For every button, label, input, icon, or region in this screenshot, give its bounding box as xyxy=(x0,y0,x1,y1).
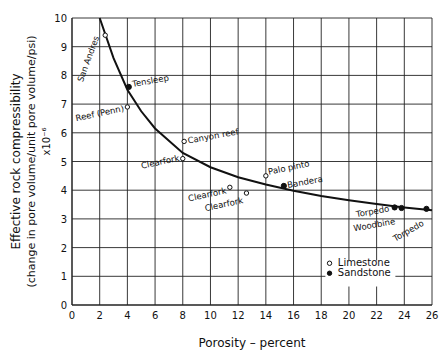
x-tick-label: 24 xyxy=(398,310,411,321)
y-tick-label: 8 xyxy=(61,70,67,81)
point-label: Bandera xyxy=(286,174,323,190)
x-tick-label: 22 xyxy=(370,310,383,321)
x-tick-label: 26 xyxy=(426,310,439,321)
point-label: Torpedo xyxy=(390,218,425,244)
data-point-torpedo xyxy=(392,205,397,210)
y-axis-scale: x10⁻⁶ xyxy=(41,128,52,156)
legend-marker-sandstone xyxy=(327,271,331,275)
y-tick-label: 1 xyxy=(61,271,67,282)
x-tick-label: 0 xyxy=(69,310,75,321)
point-label: Clearfork xyxy=(140,153,180,171)
data-point-san-andres xyxy=(103,33,107,37)
y-tick-label: 4 xyxy=(61,185,67,196)
data-point-canyon-reef xyxy=(182,139,186,143)
y-axis-subtitle: (change in pore volume/unit pore volume/… xyxy=(25,35,38,287)
y-tick-label: 3 xyxy=(61,214,67,225)
x-tick-label: 20 xyxy=(343,310,356,321)
data-point-palo-pinto xyxy=(264,174,268,178)
x-tick-label: 18 xyxy=(315,310,328,321)
data-point-reef-penn- xyxy=(125,105,129,109)
data-point-clearfork xyxy=(228,185,232,189)
y-tick-label: 5 xyxy=(61,157,67,168)
compressibility-chart: 02468101214161820222426012345678910Poros… xyxy=(0,0,447,353)
y-tick-label: 10 xyxy=(54,13,67,24)
data-point-torpedo xyxy=(424,206,429,211)
x-tick-label: 6 xyxy=(152,310,158,321)
data-point-bandera xyxy=(281,183,286,188)
y-tick-label: 6 xyxy=(61,128,67,139)
data-point-clearfork xyxy=(181,156,185,160)
x-tick-label: 14 xyxy=(259,310,272,321)
x-tick-label: 4 xyxy=(124,310,130,321)
data-point-clearfork xyxy=(244,191,248,195)
x-tick-label: 10 xyxy=(204,310,217,321)
x-axis-title: Porosity – percent xyxy=(198,336,305,350)
y-tick-label: 7 xyxy=(61,99,67,110)
legend-marker-limestone xyxy=(327,261,331,265)
x-tick-label: 16 xyxy=(287,310,300,321)
x-tick-label: 8 xyxy=(180,310,186,321)
data-point-tensleep xyxy=(126,84,131,89)
point-label: San Andres xyxy=(75,34,101,83)
point-label: Canyon reef xyxy=(187,126,241,145)
y-tick-label: 9 xyxy=(61,42,67,53)
y-tick-label: 0 xyxy=(61,300,67,311)
x-tick-label: 2 xyxy=(97,310,103,321)
y-tick-label: 2 xyxy=(61,243,67,254)
y-axis-title: Effective rock compressibility xyxy=(9,73,23,249)
data-point-woodbine xyxy=(399,205,404,210)
legend-label-sandstone: Sandstone xyxy=(338,267,391,278)
x-tick-label: 12 xyxy=(232,310,245,321)
